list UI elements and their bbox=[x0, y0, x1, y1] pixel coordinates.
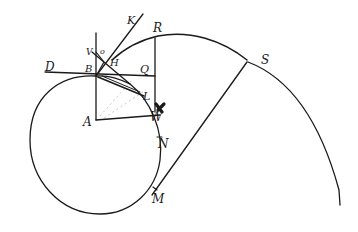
label-k: K bbox=[126, 14, 136, 27]
tangent-line-k bbox=[96, 14, 143, 76]
geometry-figure: A B D Q R K V o H L W N M S bbox=[0, 0, 358, 232]
label-w: W bbox=[150, 110, 164, 124]
small-circle bbox=[30, 76, 161, 214]
line-s-m bbox=[152, 62, 247, 195]
chord-b-l-inner bbox=[102, 76, 140, 92]
label-n: N bbox=[157, 137, 169, 151]
label-q: Q bbox=[140, 63, 149, 76]
construction-line-1 bbox=[100, 80, 132, 116]
diagram-canvas: A B D Q R K V o H L W N M S bbox=[0, 0, 358, 232]
label-m: M bbox=[151, 192, 165, 206]
label-l: L bbox=[142, 90, 150, 103]
label-s: S bbox=[261, 53, 269, 67]
large-arc-upper bbox=[112, 34, 247, 60]
label-a: A bbox=[82, 115, 92, 129]
label-d: D bbox=[44, 60, 55, 74]
label-h: H bbox=[109, 57, 119, 68]
large-arc-right bbox=[248, 62, 340, 205]
label-o: o bbox=[100, 47, 105, 56]
label-r: R bbox=[152, 21, 162, 35]
label-b: B bbox=[84, 63, 92, 74]
